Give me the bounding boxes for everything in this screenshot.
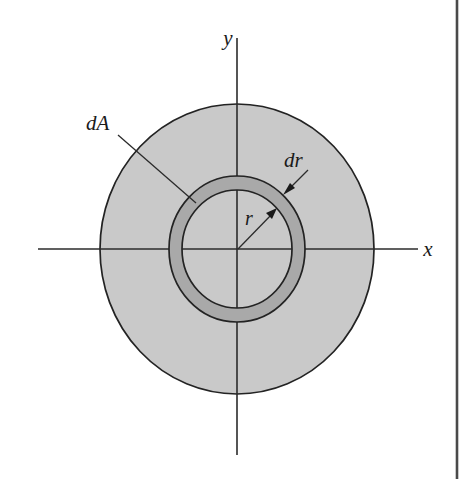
- radial-thickness-label: dr: [284, 148, 304, 172]
- x-axis-label: x: [422, 237, 433, 261]
- figure-canvas: y x dA dr r: [0, 0, 468, 479]
- y-axis-label: y: [221, 26, 233, 50]
- area-element-label: dA: [86, 111, 110, 135]
- polar-area-element-diagram: y x dA dr r: [0, 0, 468, 479]
- radius-label: r: [245, 207, 253, 229]
